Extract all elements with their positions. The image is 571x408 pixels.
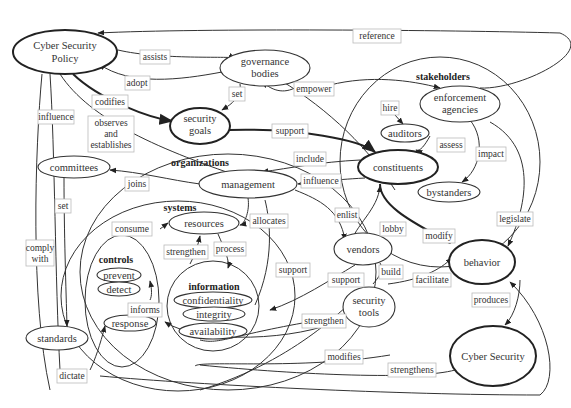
edge-label-set: set <box>229 87 245 101</box>
edge-label-modifies: modifies <box>325 350 363 364</box>
svg-text:tools: tools <box>359 307 379 318</box>
edge-label-observes-and-establishes: observes and establishes <box>88 116 134 152</box>
svg-text:modify: modify <box>425 231 453 241</box>
edge-label-produces: produces <box>472 293 510 307</box>
svg-text:auditors: auditors <box>388 128 422 139</box>
svg-text:integrity: integrity <box>196 309 232 320</box>
svg-text:strengthen: strengthen <box>304 316 344 326</box>
edge-label-set-2: set <box>55 199 71 213</box>
node-cyber-security[interactable]: Cyber Security <box>450 326 536 386</box>
node-integrity[interactable]: integrity <box>183 307 245 321</box>
svg-text:include: include <box>296 154 324 164</box>
svg-text:Policy: Policy <box>52 53 80 64</box>
node-policy[interactable]: Cyber Security Policy <box>13 30 117 74</box>
node-resources[interactable]: resources <box>169 212 239 234</box>
node-behavior[interactable]: behavior <box>449 240 515 284</box>
edge-label-support-3: support <box>328 273 364 287</box>
node-availability[interactable]: availability <box>179 323 247 339</box>
svg-text:consume: consume <box>115 224 149 234</box>
node-security-tools[interactable]: security tools <box>343 287 395 327</box>
node-governance-bodies[interactable]: governance bodies <box>220 50 310 86</box>
edge-label-allocates: allocates <box>250 214 288 228</box>
edge-label-informs: informs <box>128 303 162 317</box>
edge-label-adopt: adopt <box>125 76 150 90</box>
cluster-label-stakeholders: stakeholders <box>416 71 470 82</box>
svg-text:response: response <box>112 318 149 329</box>
node-management[interactable]: management <box>199 170 297 198</box>
svg-text:management: management <box>221 179 275 190</box>
svg-text:set: set <box>232 89 243 99</box>
svg-text:strengthens: strengthens <box>390 365 434 375</box>
svg-text:assess: assess <box>439 140 463 150</box>
svg-text:facilitate: facilitate <box>415 275 448 285</box>
svg-text:security: security <box>183 113 217 124</box>
cluster-label-information: information <box>188 281 240 292</box>
svg-text:goals: goals <box>189 125 211 136</box>
edge-label-assess: assess <box>437 138 465 152</box>
edge-label-strengthen: strengthen <box>164 245 208 259</box>
svg-text:process: process <box>216 244 245 254</box>
svg-text:hire: hire <box>383 103 398 113</box>
svg-text:Cyber Security: Cyber Security <box>461 351 525 362</box>
svg-text:confidentiality: confidentiality <box>182 295 244 306</box>
svg-text:codifies: codifies <box>95 97 125 107</box>
svg-text:produces: produces <box>474 295 509 305</box>
edge-label-influence: influence <box>38 110 74 124</box>
svg-text:dictate: dictate <box>59 371 84 381</box>
edge-label-legislate: legislate <box>497 212 533 226</box>
svg-text:allocates: allocates <box>252 216 286 226</box>
node-enforcement-agencies[interactable]: enforcement agencies <box>420 86 500 122</box>
svg-text:empower: empower <box>296 84 332 94</box>
node-constituents[interactable]: constituents <box>358 150 438 184</box>
svg-text:with: with <box>32 254 49 264</box>
svg-text:security: security <box>352 295 386 306</box>
svg-text:prevent: prevent <box>103 270 135 281</box>
svg-text:enforcement: enforcement <box>434 92 487 103</box>
svg-text:enlist: enlist <box>337 210 358 220</box>
edge-label-empower: empower <box>294 82 334 96</box>
cluster-label-systems: systems <box>164 202 197 213</box>
node-detect[interactable]: detect <box>98 282 140 296</box>
edge-label-process: process <box>214 242 246 256</box>
concept-map-diagram: stakeholders organizations systems contr… <box>0 0 571 408</box>
edge-label-hire: hire <box>381 101 399 115</box>
node-confidentiality[interactable]: confidentiality <box>174 292 252 308</box>
svg-text:resources: resources <box>184 218 224 229</box>
svg-text:set: set <box>58 201 69 211</box>
edge-label-strengthens: strengthens <box>388 363 436 377</box>
nodes: Cyber Security Policy governance bodies … <box>13 30 536 386</box>
svg-text:support: support <box>276 126 305 136</box>
svg-text:lobby: lobby <box>382 224 404 234</box>
edge-label-enlist: enlist <box>335 208 359 222</box>
svg-text:detect: detect <box>106 284 131 295</box>
svg-text:and: and <box>104 129 118 139</box>
svg-text:assists: assists <box>143 52 168 62</box>
svg-text:comply: comply <box>26 243 55 253</box>
node-prevent[interactable]: prevent <box>97 268 141 282</box>
svg-text:bystanders: bystanders <box>427 187 472 198</box>
svg-text:adopt: adopt <box>126 78 147 88</box>
edge-label-lobby: lobby <box>380 222 406 236</box>
svg-text:governance: governance <box>241 56 290 67</box>
svg-text:impact: impact <box>478 149 504 159</box>
node-committees[interactable]: committees <box>38 156 110 178</box>
edge-label-modify: modify <box>423 229 455 243</box>
edge-label-dictate: dictate <box>57 369 87 383</box>
svg-text:agencies: agencies <box>442 104 478 115</box>
svg-text:bodies: bodies <box>251 68 278 79</box>
edge-label-support-2: support <box>276 263 310 277</box>
svg-text:modifies: modifies <box>327 352 361 362</box>
node-security-goals[interactable]: security goals <box>170 108 230 144</box>
svg-text:build: build <box>381 267 401 277</box>
node-vendors[interactable]: vendors <box>334 233 392 265</box>
edge-label-impact: impact <box>476 147 506 161</box>
svg-text:support: support <box>279 265 308 275</box>
node-standards[interactable]: standards <box>26 326 88 350</box>
svg-text:observes: observes <box>94 118 128 128</box>
svg-text:legislate: legislate <box>499 214 531 224</box>
node-auditors[interactable]: auditors <box>381 124 429 142</box>
node-bystanders[interactable]: bystanders <box>418 182 480 202</box>
edge-label-reference: reference <box>353 29 401 43</box>
edge-label-joins: joins <box>125 177 149 191</box>
edge-label-support: support <box>272 124 308 138</box>
